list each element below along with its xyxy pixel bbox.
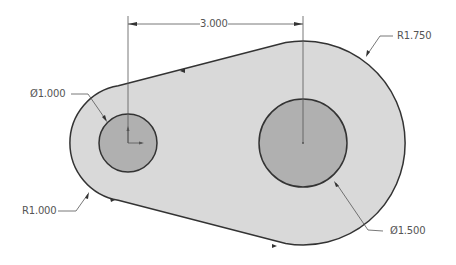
center-point — [302, 142, 304, 144]
dimension-small-hole-diameter[interactable]: Ø1.000 — [30, 88, 65, 100]
arrow-left-icon — [128, 22, 137, 26]
cad-drawing: 3.000 Ø1.000 R1.750 R1.000 Ø1.500 — [0, 0, 456, 265]
part-sketch — [0, 0, 456, 265]
dimension-large-hole-diameter[interactable]: Ø1.500 — [390, 225, 425, 237]
dimension-large-radius[interactable]: R1.750 — [397, 30, 431, 42]
dimension-center-distance[interactable]: 3.000 — [200, 18, 228, 30]
leader-arrow-icon — [85, 192, 89, 199]
arrow-right-icon — [294, 22, 303, 26]
edge-arrow-icon — [272, 244, 277, 248]
leader-large-radius — [367, 36, 393, 55]
dimension-small-radius[interactable]: R1.000 — [22, 205, 56, 217]
leader-small-radius — [58, 194, 88, 211]
